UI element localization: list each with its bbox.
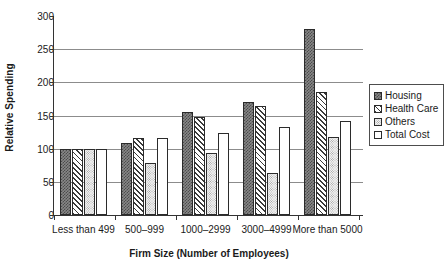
bar[interactable] [194,117,205,215]
x-axis-category-label: 3000–4999 [241,224,291,235]
bar-group [60,16,107,215]
y-axis-tick-label: 200 [8,77,54,88]
x-axis-tick-mark [237,215,238,220]
bar[interactable] [96,149,107,215]
x-axis-tick-mark [359,215,360,220]
legend-item[interactable]: Health Care [374,102,438,115]
y-axis-tick-label: 50 [8,176,54,187]
legend-swatch-icon [374,92,382,100]
bar-group [182,16,229,215]
legend-label: Total Cost [385,129,429,140]
bar[interactable] [304,29,315,215]
legend-item[interactable]: Others [374,115,438,128]
y-axis-tick-label: 250 [8,44,54,55]
bar[interactable] [121,143,132,215]
x-axis-tick-mark [54,215,55,220]
legend-swatch-icon [374,131,382,139]
x-axis-tick-mark [115,215,116,220]
bar[interactable] [267,173,278,215]
bar[interactable] [316,92,327,215]
bar-group [121,16,168,215]
bar-chart: Relative Spending 050100150200250300 Fir… [0,0,447,274]
legend-item[interactable]: Housing [374,89,438,102]
legend-label: Housing [385,90,422,101]
bar-group [243,16,290,215]
bar[interactable] [60,149,71,215]
x-axis-category-label: Less than 499 [52,224,115,235]
legend-swatch-icon [374,105,382,113]
y-axis-tick-label: 150 [8,110,54,121]
x-axis-tick-mark [298,215,299,220]
bar[interactable] [84,149,95,215]
bar[interactable] [182,112,193,215]
gridline [54,215,363,216]
bar[interactable] [206,153,217,215]
bar[interactable] [218,133,229,215]
legend-label: Others [385,116,415,127]
bar[interactable] [72,149,83,215]
x-axis-title: Firm Size (Number of Employees) [54,248,364,259]
bar[interactable] [279,127,290,215]
chart-legend: HousingHealth CareOthersTotal Cost [369,84,444,146]
y-axis-tick-label: 300 [8,11,54,22]
y-axis-tick-label: 0 [8,210,54,221]
legend-swatch-icon [374,118,382,126]
bar[interactable] [328,137,339,215]
legend-label: Health Care [385,103,438,114]
x-axis-category-label: 1000–2999 [180,224,230,235]
legend-item[interactable]: Total Cost [374,128,438,141]
plot-area [54,16,363,215]
bar[interactable] [340,121,351,215]
bar[interactable] [133,138,144,215]
y-axis-ticks: 050100150200250300 [0,0,54,274]
bar[interactable] [255,106,266,215]
bar-group [304,16,351,215]
x-axis-category-label: 500–999 [125,224,164,235]
bar[interactable] [157,138,168,215]
y-axis-tick-label: 100 [8,143,54,154]
bar[interactable] [145,163,156,215]
x-axis-tick-mark [176,215,177,220]
bar[interactable] [243,102,254,215]
x-axis-category-label: More than 5000 [292,224,362,235]
